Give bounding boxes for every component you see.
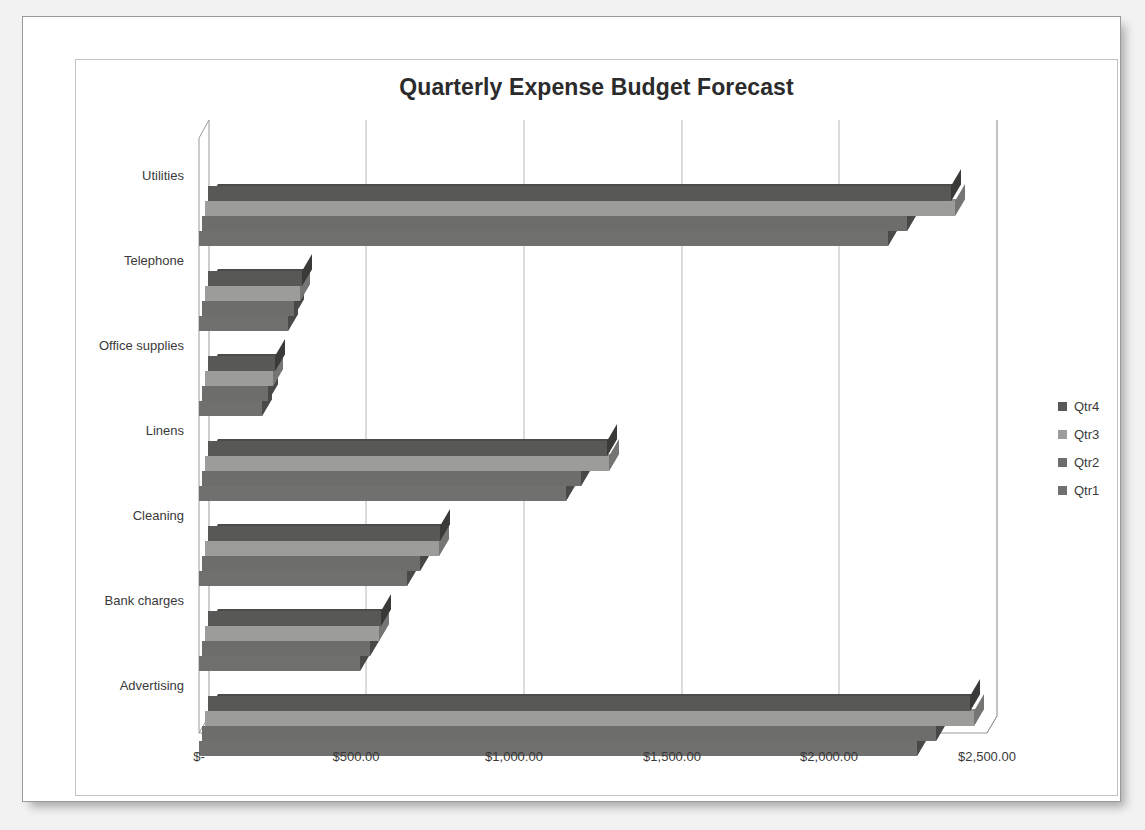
legend-swatch-qtr2 [1058,458,1067,467]
x-tick-label: $1,500.00 [643,749,701,764]
legend-label-qtr4: Qtr4 [1074,399,1099,414]
x-tick-label: $2,500.00 [958,749,1016,764]
chart-object-frame[interactable]: Quarterly Expense Budget Forecast [75,59,1118,796]
y-tick-label: Utilities [142,168,184,183]
x-tick-label: $2,000.00 [800,749,858,764]
chart-plot-area[interactable]: Utilities Telephone Office supplies Line… [76,60,1119,797]
chart-legend[interactable]: Qtr4 Qtr3 Qtr2 Qtr1 [1058,392,1145,504]
legend-swatch-qtr1 [1058,486,1067,495]
x-tick-label: $- [193,749,205,764]
x-tick-label: $500.00 [333,749,380,764]
legend-swatch-qtr3 [1058,430,1067,439]
document-page-frame: Quarterly Expense Budget Forecast [22,16,1121,802]
legend-item-qtr1[interactable]: Qtr1 [1058,476,1145,504]
legend-label-qtr2: Qtr2 [1074,455,1099,470]
y-tick-label: Bank charges [105,593,185,608]
x-tick-label: $1,000.00 [485,749,543,764]
y-tick-label: Office supplies [99,338,185,353]
legend-item-qtr2[interactable]: Qtr2 [1058,448,1145,476]
legend-item-qtr3[interactable]: Qtr3 [1058,420,1145,448]
y-tick-label: Cleaning [133,508,184,523]
y-tick-label: Linens [146,423,185,438]
y-tick-label: Advertising [120,678,184,693]
legend-item-qtr4[interactable]: Qtr4 [1058,392,1145,420]
legend-swatch-qtr4 [1058,402,1067,411]
legend-label-qtr3: Qtr3 [1074,427,1099,442]
y-tick-label: Telephone [124,253,184,268]
y-axis-category-labels: Utilities Telephone Office supplies Line… [99,168,185,693]
legend-label-qtr1: Qtr1 [1074,483,1099,498]
screenshot-canvas: Quarterly Expense Budget Forecast [0,0,1145,830]
